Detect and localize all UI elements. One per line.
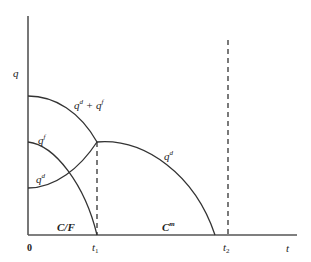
label-qf-sup: f <box>44 133 46 141</box>
label-sup-f: f <box>101 98 103 106</box>
x-tick-t1-sub: 1 <box>95 247 99 255</box>
y-axis-label: q <box>13 68 19 79</box>
label-plus: + <box>83 99 96 111</box>
diagram: q t 0 t1 t2 qd + qf qf qd qd C/F Cm <box>0 0 311 262</box>
region-cm-sup: m <box>169 220 174 228</box>
x-tick-t2: t2 <box>223 242 230 255</box>
region-label-cf: C/F <box>57 222 75 233</box>
label-qf: qf <box>38 134 45 146</box>
x-axis-label: t <box>286 243 289 254</box>
label-qd-falling: qd <box>164 150 173 162</box>
curve-qd-falling <box>97 142 215 235</box>
region-label-cm: Cm <box>162 221 175 233</box>
diagram-canvas <box>0 0 311 262</box>
label-qd-rising-sup: d <box>42 172 46 180</box>
x-tick-t2-sub: 2 <box>226 247 230 255</box>
label-qd-falling-sup: d <box>170 149 174 157</box>
label-qd-rising: qd <box>36 173 45 185</box>
x-tick-t1: t1 <box>92 242 99 255</box>
origin-label: 0 <box>27 243 32 253</box>
label-qd-plus-qf: qd + qf <box>74 99 103 111</box>
